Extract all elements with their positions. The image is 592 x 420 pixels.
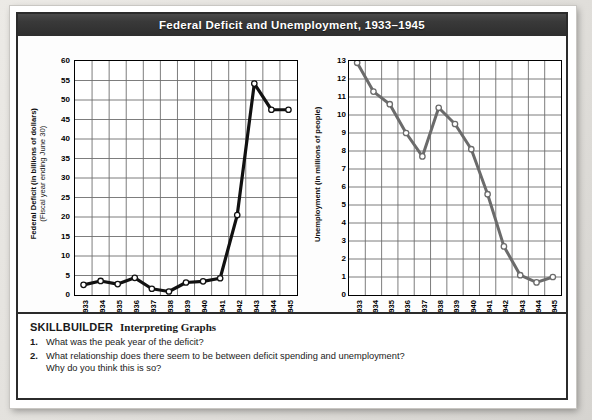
skillbuilder-header: SKILLBUILDER Interpreting Graphs <box>30 321 554 333</box>
y-tick-label: 35 <box>61 155 70 163</box>
y-tick-label: 6 <box>342 183 346 191</box>
skillbuilder-panel: SKILLBUILDER Interpreting Graphs 1. What… <box>18 312 566 398</box>
question-1-number: 1. <box>30 336 41 349</box>
skillbuilder-label: SKILLBUILDER <box>30 321 113 333</box>
y-tick-label: 30 <box>61 174 70 182</box>
y-tick-label: 1 <box>342 273 346 281</box>
chart-federal-deficit: Federal Deficit (in billions of dollars)… <box>26 36 298 314</box>
charts-area: Federal Deficit (in billions of dollars)… <box>18 36 566 314</box>
left-chart-y-axis-title: Federal Deficit (in billions of dollars)… <box>26 50 52 298</box>
figure-title-bar: Federal Deficit and Unemployment, 1933–1… <box>18 14 566 36</box>
y-tick-label: 7 <box>342 165 346 173</box>
y-tick-label: 50 <box>61 96 70 104</box>
y-tick-label: 5 <box>342 201 346 209</box>
question-2-line-1: What relationship does there seem to be … <box>46 351 405 361</box>
y-tick-label: 12 <box>337 75 346 83</box>
y-tick-label: 60 <box>61 57 70 65</box>
y-tick-label: 0 <box>342 291 346 299</box>
chart-unemployment: Unemployment (in millions of people) 012… <box>306 36 564 314</box>
y-tick-label: 55 <box>61 77 70 85</box>
question-2-text: What relationship does there seem to be … <box>46 350 405 375</box>
skillbuilder-question-1: 1. What was the peak year of the deficit… <box>30 336 554 349</box>
y-tick-label: 10 <box>61 252 70 260</box>
right-chart-y-ticks: 012345678910111213 <box>328 60 348 296</box>
y-tick-label: 8 <box>342 147 346 155</box>
y-tick-label: 2 <box>342 255 346 263</box>
question-1-text: What was the peak year of the deficit? <box>46 336 204 349</box>
y-tick-label: 5 <box>66 272 70 280</box>
right-chart-plot <box>348 60 562 296</box>
skillbuilder-question-2: 2. What relationship does there seem to … <box>30 350 554 375</box>
y-tick-label: 9 <box>342 129 346 137</box>
right-y-axis-label-main: Unemployment (in millions of people) <box>315 106 324 241</box>
page-background: Federal Deficit and Unemployment, 1933–1… <box>0 0 592 420</box>
left-y-axis-label-sub: (Fiscal year ending June 30) <box>39 108 48 239</box>
y-tick-label: 13 <box>337 57 346 65</box>
y-tick-label: 15 <box>61 233 70 241</box>
skillbuilder-subtitle: Interpreting Graphs <box>120 321 216 333</box>
left-chart-plot <box>74 60 298 296</box>
question-2-number: 2. <box>30 350 41 375</box>
figure-outer-frame: Federal Deficit and Unemployment, 1933–1… <box>10 6 576 408</box>
y-tick-label: 45 <box>61 116 70 124</box>
y-tick-label: 0 <box>66 291 70 299</box>
y-tick-label: 11 <box>338 93 346 101</box>
y-tick-label: 10 <box>337 111 346 119</box>
y-tick-label: 4 <box>342 219 346 227</box>
left-chart-y-ticks: 051015202530354045505560 <box>52 60 72 296</box>
question-2-line-2: Why do you think this is so? <box>46 362 405 375</box>
figure-card: Federal Deficit and Unemployment, 1933–1… <box>16 12 568 400</box>
y-tick-label: 40 <box>61 135 70 143</box>
y-tick-label: 20 <box>61 213 70 221</box>
y-tick-label: 25 <box>61 194 70 202</box>
y-tick-label: 3 <box>342 237 346 245</box>
figure-title: Federal Deficit and Unemployment, 1933–1… <box>159 19 425 31</box>
